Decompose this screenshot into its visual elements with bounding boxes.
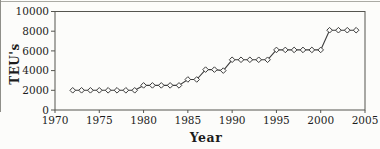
data-point-marker xyxy=(79,88,85,94)
data-point-marker xyxy=(123,88,129,94)
x-tick-label: 2005 xyxy=(352,114,379,126)
y-tick-label: 8000 xyxy=(22,25,49,37)
data-point-marker xyxy=(176,83,182,89)
data-point-marker xyxy=(318,47,324,53)
data-point-marker xyxy=(247,57,253,63)
data-point-marker xyxy=(291,47,297,53)
data-point-marker xyxy=(336,27,342,33)
data-point-marker xyxy=(256,57,262,63)
data-point-marker xyxy=(327,27,333,33)
data-point-marker xyxy=(344,27,350,33)
x-tick-label: 1975 xyxy=(86,114,113,126)
data-point-marker xyxy=(300,47,306,53)
data-point-marker xyxy=(88,88,94,94)
x-tick-label: 1980 xyxy=(130,114,157,126)
data-point-marker xyxy=(150,83,156,89)
data-point-marker xyxy=(114,88,120,94)
y-axis-title: TEU's xyxy=(8,43,22,84)
data-point-marker xyxy=(70,88,76,94)
y-tick-label: 10000 xyxy=(16,5,49,17)
y-tick-label: 6000 xyxy=(22,45,49,57)
x-tick-label: 1995 xyxy=(263,114,290,126)
data-point-marker xyxy=(282,47,288,53)
data-line xyxy=(73,30,356,90)
plot-frame xyxy=(55,12,365,111)
x-tick-label: 2000 xyxy=(307,114,334,126)
data-point-marker xyxy=(141,83,147,89)
y-tick-label: 4000 xyxy=(22,64,49,76)
scanned-chart-page: 0200040006000800010000197019751980198519… xyxy=(0,0,380,149)
data-point-marker xyxy=(105,88,111,94)
data-point-marker xyxy=(132,88,138,94)
data-point-marker xyxy=(158,83,164,89)
x-tick-label: 1990 xyxy=(219,114,246,126)
y-tick-label: 2000 xyxy=(22,84,49,96)
x-tick-label: 1970 xyxy=(42,114,69,126)
data-point-marker xyxy=(353,27,359,33)
data-point-marker xyxy=(167,83,173,89)
x-axis-title: Year xyxy=(190,130,222,145)
data-point-marker xyxy=(212,67,218,73)
data-point-marker xyxy=(96,88,102,94)
x-tick-label: 1985 xyxy=(174,114,201,126)
teu-line-chart: 0200040006000800010000197019751980198519… xyxy=(0,0,380,149)
data-point-marker xyxy=(309,47,315,53)
data-point-marker xyxy=(238,57,244,63)
